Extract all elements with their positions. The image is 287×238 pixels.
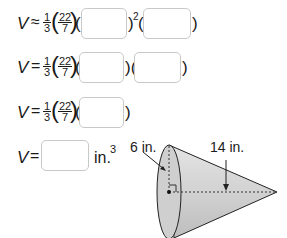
- radius-label: 6 in.: [130, 139, 156, 155]
- cone-diagram: [0, 0, 287, 238]
- base-center-point: [167, 190, 171, 194]
- height-label: 14 in.: [210, 139, 244, 155]
